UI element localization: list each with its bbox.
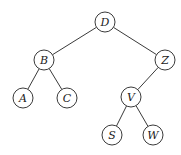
tree-node-c: C (57, 88, 77, 108)
tree-node-w: W (143, 125, 163, 145)
node-label: S (108, 129, 116, 142)
tree-edges (28, 27, 158, 126)
tree-node-z: Z (155, 50, 175, 70)
binary-tree-diagram: DBZACVSW (0, 0, 181, 155)
edge-v-w (136, 106, 148, 127)
tree-node-s: S (102, 125, 122, 145)
tree-node-d: D (95, 12, 115, 32)
edge-b-c (49, 69, 62, 90)
edge-z-v (138, 67, 158, 89)
node-label: C (63, 92, 72, 105)
edge-v-s (116, 106, 126, 126)
edge-b-a (28, 69, 39, 89)
node-label: Z (160, 54, 169, 67)
node-label: B (39, 54, 48, 67)
node-label: A (18, 92, 27, 105)
tree-nodes: DBZACVSW (13, 12, 175, 145)
tree-node-b: B (34, 50, 54, 70)
node-label: D (100, 16, 110, 29)
tree-node-a: A (13, 88, 33, 108)
edge-d-z (113, 27, 156, 54)
tree-node-v: V (121, 87, 141, 107)
edge-d-b (52, 27, 96, 54)
node-label: W (147, 129, 160, 142)
node-label: V (127, 91, 136, 104)
